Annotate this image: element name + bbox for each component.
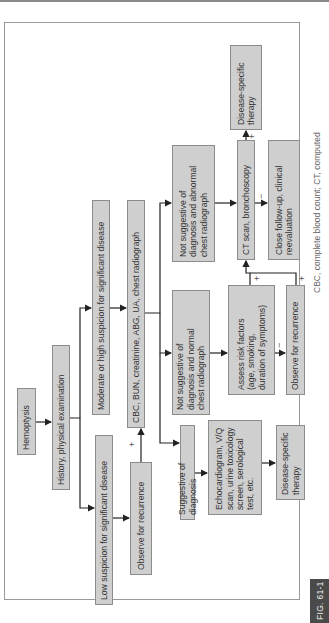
- node-assess-risk-factors: Assess risk factors (age, smoking, durat…: [228, 285, 275, 395]
- label-line: therapy: [291, 432, 301, 495]
- label-line: therapy: [246, 62, 256, 125]
- node-label: CBC, BUN, creatinine, ABG, UA, chest rad…: [131, 232, 141, 423]
- edge-label-plus: +: [253, 276, 262, 281]
- node-observe-recurrence-left: Observe for recurrence: [130, 462, 152, 575]
- node-label: Observe for recurrence: [290, 302, 300, 390]
- node-label: Not suggestive of diagnosis and abnormal…: [178, 166, 209, 257]
- node-disease-specific-therapy-top: Disease-specific therapy: [230, 45, 262, 130]
- label-line: Echocardiogram, V/Q: [214, 427, 224, 510]
- node-not-suggestive-abnormal-cxr: Not suggestive of diagnosis and abnormal…: [172, 145, 215, 262]
- node-label: Echocardiogram, V/Q scan, urine toxicolo…: [214, 427, 256, 510]
- node-label: Close follow-up, clinical reevaluation: [274, 166, 295, 255]
- edge-label-minus: −: [275, 343, 284, 348]
- flowchart-canvas: Hemoptysis History, physical examination…: [0, 0, 329, 623]
- node-moderate-high-suspicion: Moderate or high suspicion for significa…: [92, 200, 110, 415]
- label-line: Assess risk factors: [236, 305, 246, 390]
- label-line: diagnosis and normal: [186, 328, 196, 410]
- edge-label-minus: −: [257, 194, 266, 199]
- node-label: Disease-specific therapy: [236, 62, 257, 125]
- node-label: Not suggestive of diagnosis and normal c…: [175, 328, 206, 410]
- figure-caption: CBC, complete blood count; CT, computed: [312, 3, 322, 293]
- label-line: (age, smoking,: [246, 305, 256, 390]
- node-label: Suggestive of diagnosis: [177, 430, 198, 515]
- node-label: Observe for recurrence: [136, 482, 146, 570]
- node-observe-recurrence-right: Observe for recurrence: [286, 285, 305, 395]
- label-line: Not suggestive of: [178, 166, 188, 257]
- node-label: CT scan, bronchoscopy: [241, 165, 251, 255]
- label-line: duration of symptoms): [257, 305, 267, 390]
- label-line: Close follow-up, clinical: [274, 166, 284, 255]
- label-line: reevaluation: [284, 166, 294, 255]
- node-disease-specific-therapy-bottom: Disease-specific therapy: [276, 425, 305, 500]
- node-hemoptysis: Hemoptysis: [17, 388, 36, 455]
- edge-label-plus: +: [298, 276, 307, 281]
- node-history-physical: History, physical examination: [52, 345, 70, 490]
- edge-label-plus: +: [128, 442, 137, 447]
- figure-label: FIG. 61-1: [310, 579, 329, 623]
- node-label: Low suspicion for significant disease: [99, 461, 109, 600]
- label-line: screen, serological: [235, 427, 245, 510]
- node-not-suggestive-normal-cxr: Not suggestive of diagnosis and normal c…: [172, 290, 210, 415]
- label-line: test, etc.: [245, 427, 255, 510]
- label-line: scan, urine toxicology: [225, 427, 235, 510]
- node-label: History, physical examination: [56, 374, 66, 485]
- label-line: chest radiograph: [196, 328, 206, 410]
- label-line: Not suggestive of: [175, 328, 185, 410]
- node-label: Hemoptysis: [21, 405, 31, 450]
- label-line: chest radiograph: [199, 166, 209, 257]
- node-workup-tests: Echocardiogram, V/Q scan, urine toxicolo…: [208, 420, 262, 515]
- edge-label-plus: +: [248, 134, 257, 139]
- node-label: Moderate or high suspicion for significa…: [96, 222, 106, 410]
- node-label: Disease-specific therapy: [280, 432, 301, 495]
- node-ct-bronchoscopy: CT scan, bronchoscopy: [237, 140, 255, 260]
- label-line: Disease-specific: [280, 432, 290, 495]
- node-low-suspicion: Low suspicion for significant disease: [95, 435, 113, 605]
- label-line: diagnosis and abnormal: [188, 166, 198, 257]
- node-suggestive-diagnosis: Suggestive of diagnosis: [180, 425, 195, 520]
- node-close-follow-up: Close follow-up, clinical reevaluation: [268, 140, 300, 260]
- node-label: Assess risk factors (age, smoking, durat…: [236, 305, 267, 390]
- label-line: Disease-specific: [236, 62, 246, 125]
- connector-lines: [0, 0, 329, 623]
- node-labs-chest-radiograph: CBC, BUN, creatinine, ABG, UA, chest rad…: [127, 200, 145, 428]
